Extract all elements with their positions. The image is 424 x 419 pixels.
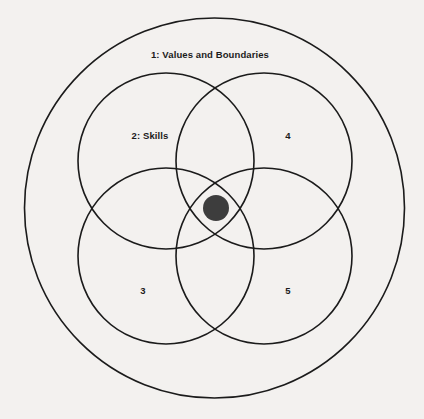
- circle-lower-right: [176, 168, 352, 344]
- label-skills: 2: Skills: [132, 131, 169, 141]
- circle-lower-left: [78, 168, 254, 344]
- label-three: 3: [140, 286, 145, 296]
- venn-diagram-svg: [0, 0, 424, 419]
- center-intersection-dot: [203, 195, 229, 221]
- label-five: 5: [285, 286, 290, 296]
- circle-upper-right: [176, 73, 352, 249]
- label-values-and-boundaries: 1: Values and Boundaries: [151, 50, 269, 60]
- diagram-canvas: 1: Values and Boundaries 2: Skills 4 3 5: [0, 0, 424, 419]
- circle-upper-left: [78, 73, 254, 249]
- label-four: 4: [285, 131, 290, 141]
